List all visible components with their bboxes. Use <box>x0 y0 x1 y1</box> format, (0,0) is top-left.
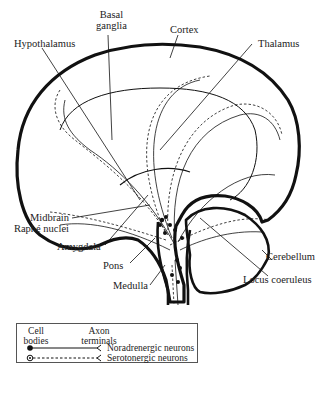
label-hypothalamus: Hypothalamus <box>14 38 75 49</box>
label-cortex: Cortex <box>170 24 199 35</box>
label-basal-ganglia: Basal ganglia <box>96 9 127 31</box>
legend-cell-line1: Cell <box>23 326 49 336</box>
label-midbrain-line1: Midbrain <box>12 212 69 223</box>
label-thalamus: Thalamus <box>258 38 299 49</box>
label-midbrain-raphe: Midbrain Raphé nuclei <box>12 212 69 234</box>
serotonergic-pathways <box>50 76 282 305</box>
label-basal-line1: Basal <box>96 9 127 20</box>
inner-limbic-outline <box>60 88 257 200</box>
legend: Cell bodies Axon terminals Noradrenergic… <box>16 323 198 363</box>
legend-axon-line1: Axon <box>79 326 119 336</box>
label-medulla: Medulla <box>113 280 148 291</box>
legend-label-serotonergic: Serotonergic neurons <box>107 353 188 363</box>
cerebrum-outline <box>17 44 299 302</box>
label-amygdala: Amygdala <box>57 241 101 252</box>
label-cerebellum: Cerebellum <box>266 251 315 262</box>
legend-noradrenergic-symbol <box>25 344 105 352</box>
label-basal-line2: ganglia <box>96 20 127 31</box>
legend-label-noradrenergic: Noradrenergic neurons <box>107 343 194 353</box>
label-locus-coeruleus: Locus coeruleus <box>243 274 312 285</box>
label-pons: Pons <box>103 260 123 271</box>
legend-serotonergic-symbol <box>25 354 105 362</box>
legend-header-cell-bodies: Cell bodies <box>23 326 49 346</box>
label-midbrain-line2: Raphé nuclei <box>12 223 69 234</box>
